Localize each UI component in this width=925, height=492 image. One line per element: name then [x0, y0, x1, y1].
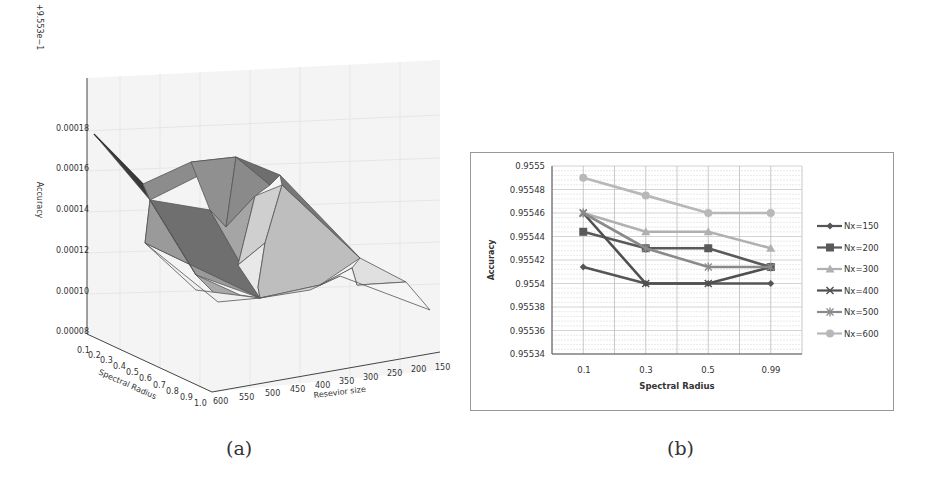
- surface-plot-panel: +9.553e−1 Accuracy 0.00018 0.00016 0.000…: [0, 0, 460, 430]
- x-tick: 0.9: [180, 393, 193, 402]
- x-tick: 1.0: [194, 399, 207, 408]
- legend-label: Nx=150: [844, 221, 879, 231]
- legend-label: Nx=200: [844, 243, 879, 253]
- line-chart-panel: 0.9555 0.95548 0.95546 0.95544 0.95542 0…: [460, 0, 925, 430]
- y-tick: 0.95534: [510, 349, 545, 359]
- caption-b: (b): [667, 437, 694, 459]
- z-tick: 0.00008: [56, 327, 89, 336]
- y-tick: 0.95544: [510, 232, 545, 242]
- z-tick: 0.00010: [56, 287, 89, 296]
- z-tick: 0.00016: [56, 164, 89, 173]
- surface-plot: +9.553e−1 Accuracy 0.00018 0.00016 0.000…: [0, 0, 460, 430]
- x-tick: 0.6: [139, 374, 152, 383]
- x-tick: 0.99: [762, 365, 781, 375]
- y-tick: 200: [411, 365, 426, 374]
- x-tick: 0.5: [126, 368, 139, 377]
- z-tick-labels: 0.00018 0.00016 0.00014 0.00012 0.00010 …: [56, 124, 89, 336]
- y-tick: 0.95538: [510, 302, 545, 312]
- y-tick: 0.95548: [510, 185, 545, 195]
- y-tick: 350: [339, 377, 354, 386]
- x-tick: 0.3: [100, 356, 113, 365]
- y-tick: 0.95542: [510, 255, 545, 265]
- y-tick: 600: [213, 397, 228, 406]
- y-tick: 0.9555: [515, 161, 545, 171]
- x-tick: 0.1: [577, 365, 591, 375]
- legend-label: Nx=400: [844, 286, 879, 296]
- x-tick: 0.7: [153, 381, 166, 390]
- y-tick: 0.9554: [515, 279, 545, 289]
- legend-label: Nx=500: [844, 307, 879, 317]
- y-tick-labels: 0.9555 0.95548 0.95546 0.95544 0.95542 0…: [510, 161, 545, 359]
- line-chart: 0.9555 0.95548 0.95546 0.95544 0.95542 0…: [460, 0, 925, 430]
- z-tick: 0.00018: [56, 124, 89, 133]
- y-tick: 0.95546: [510, 208, 545, 218]
- y-axis-label: Accuracy: [487, 239, 496, 280]
- z-tick: 0.00012: [56, 246, 89, 255]
- legend-label: Nx=300: [844, 264, 879, 274]
- caption-a: (a): [226, 437, 252, 459]
- y-tick: 550: [239, 393, 254, 402]
- x-tick: 0.8: [166, 387, 179, 396]
- y-tick: 150: [435, 363, 450, 372]
- x-tick: 0.5: [701, 365, 715, 375]
- x-tick: 0.2: [88, 351, 101, 360]
- legend-item: Nx=200: [817, 243, 879, 253]
- z-axis-label: Accuracy: [35, 182, 44, 219]
- y-tick: 300: [363, 373, 378, 382]
- y-tick: 250: [387, 369, 402, 378]
- x-tick: 0.4: [113, 362, 126, 371]
- y-tick: 450: [290, 385, 305, 394]
- z-tick: 0.00014: [56, 205, 89, 214]
- y-tick: 500: [265, 389, 280, 398]
- y-tick: 0.95536: [510, 326, 545, 336]
- legend-label: Nx=600: [844, 329, 879, 339]
- z-offset-label: +9.553e−1: [35, 4, 44, 50]
- x-axis-label: Spectral Radius: [639, 381, 714, 391]
- x-tick: 0.3: [639, 365, 653, 375]
